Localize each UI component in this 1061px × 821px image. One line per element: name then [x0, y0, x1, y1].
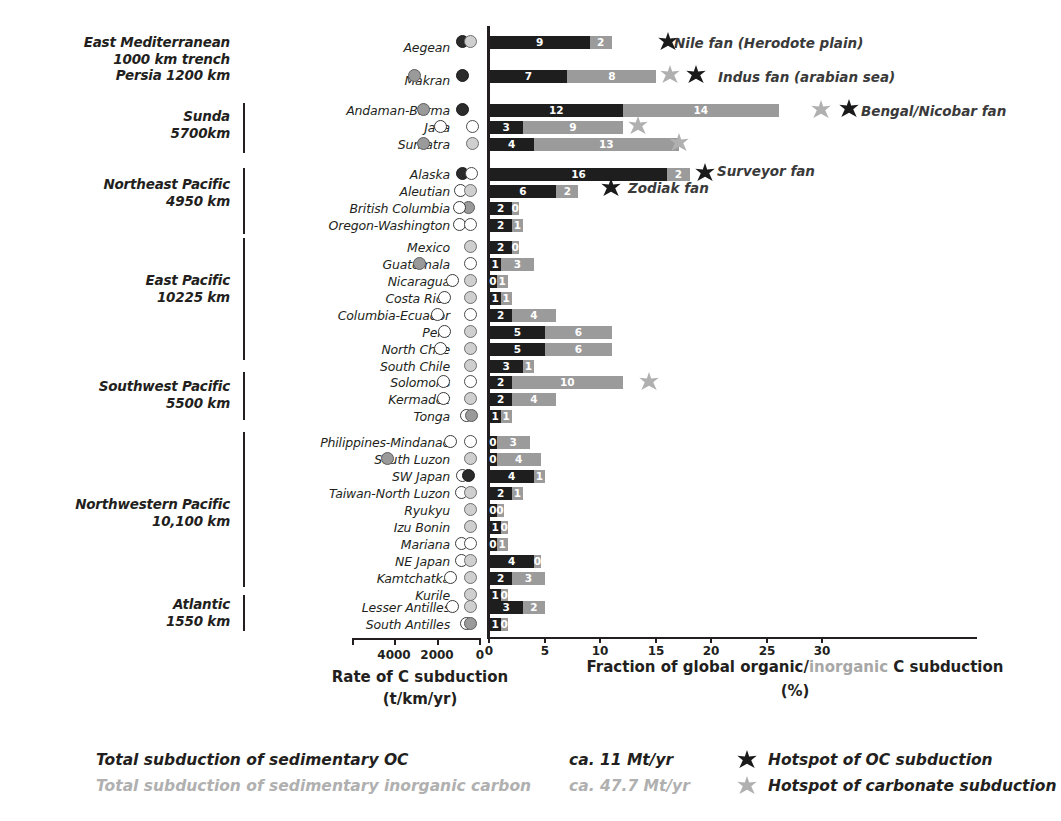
bar-value-organic: 4 — [490, 470, 534, 483]
x-axis-tick — [710, 637, 712, 643]
bar-oregon-washington: 21 — [490, 219, 523, 232]
rate-dot-inorganic — [464, 218, 477, 231]
rate-dot-inorganic — [466, 120, 479, 133]
bar-value-organic: 3 — [490, 360, 523, 373]
bar-segment-organic: 2 — [490, 572, 512, 585]
bar-value-organic: 2 — [490, 376, 512, 389]
rate-dot-organic — [444, 435, 457, 448]
bar-segment-inorganic: 0 — [534, 555, 541, 568]
bar-value-inorganic: 4 — [512, 393, 556, 406]
bar-segment-organic: 7 — [490, 70, 568, 83]
fan-label-nile: Nile fan (Herodote plain) — [674, 36, 863, 50]
x-axis-tick — [544, 637, 546, 643]
fan-label-bengal: Bengal/Nicobar fan — [861, 104, 1006, 118]
bar-segment-organic: 5 — [490, 326, 546, 339]
rate-dot-inorganic — [408, 69, 421, 82]
bar-value-inorganic: 13 — [534, 138, 679, 151]
bar-segment-organic: 0 — [490, 453, 497, 466]
bar-segment-inorganic: 0 — [497, 504, 504, 517]
bar-segment-organic: 1 — [490, 292, 501, 305]
bar-tonga: 11 — [490, 410, 512, 423]
region-line: Northwestern Pacific — [10, 496, 230, 513]
bar-value-organic: 7 — [490, 70, 568, 83]
x-caption-post: C subduction — [888, 658, 1003, 676]
region-label-sunda: Sunda 5700km — [10, 108, 230, 141]
x-axis-tick — [821, 637, 823, 643]
rate-dot-inorganic — [464, 554, 477, 567]
bar-segment-inorganic: 3 — [497, 436, 530, 449]
rate-dot-inorganic — [464, 520, 477, 533]
region-label-east-pacific: East Pacific 10225 km — [10, 272, 230, 305]
bar-sumatra: 413 — [490, 138, 679, 151]
region-line: 4950 km — [10, 193, 230, 210]
bar-segment-inorganic: 2 — [590, 36, 612, 49]
rate-dot-inorganic — [464, 325, 477, 338]
bar-segment-organic: 5 — [490, 343, 546, 356]
star-icon-carbonate-hotspot — [659, 64, 681, 86]
rate-dot-organic — [446, 600, 459, 613]
bar-value-inorganic: 1 — [497, 275, 508, 288]
rate-dot-inorganic — [464, 537, 477, 550]
bar-value-inorganic: 1 — [512, 219, 523, 232]
x-axis-tick — [488, 637, 490, 643]
bar-segment-organic: 3 — [490, 601, 523, 614]
star-icon-carbonate-hotspot — [736, 775, 758, 797]
bar-segment-inorganic: 1 — [512, 487, 523, 500]
legend-oc-value: ca. 11 Mt/yr — [569, 748, 673, 772]
bar-kermadec: 24 — [490, 393, 557, 406]
bar-makran: 78 — [490, 70, 657, 83]
rate-axis-tick — [394, 638, 396, 645]
rate-tick-label-4000: 4000 — [371, 648, 417, 662]
bar-value-organic: 2 — [490, 241, 512, 254]
rate-dot-organic — [446, 274, 459, 287]
bar-kamtchatka: 23 — [490, 572, 546, 585]
region-line: 5700km — [10, 125, 230, 142]
bar-value-inorganic: 2 — [590, 36, 612, 49]
bar-segment-inorganic: 10 — [512, 376, 623, 389]
legend-row-inorganic: Total subduction of sedimentary inorgani… — [96, 774, 996, 800]
region-line: 1000 km trench — [10, 51, 230, 68]
bar-british-columbia: 20 — [490, 202, 519, 215]
bar-value-inorganic: 6 — [545, 326, 612, 339]
bar-value-inorganic: 0 — [512, 241, 519, 254]
bar-segment-inorganic: 0 — [501, 521, 508, 534]
bar-value-organic: 1 — [490, 618, 501, 631]
rate-dot-organic — [434, 120, 447, 133]
bar-value-inorganic: 4 — [512, 309, 556, 322]
rate-dot-inorganic — [413, 257, 426, 270]
rate-dot-organic — [437, 375, 450, 388]
bar-value-organic: 1 — [490, 292, 501, 305]
bar-segment-inorganic: 4 — [497, 453, 541, 466]
region-line: 10225 km — [10, 289, 230, 306]
legend-ic-value: ca. 47.7 Mt/yr — [569, 774, 690, 798]
bar-lesser-antilles: 32 — [490, 601, 546, 614]
x-caption-inorganic: inorganic — [809, 658, 888, 676]
bar-segment-organic: 2 — [490, 376, 512, 389]
bar-segment-inorganic: 8 — [567, 70, 656, 83]
rate-dot-organic — [462, 469, 475, 482]
x-axis-tick — [599, 637, 601, 643]
bar-segment-inorganic: 4 — [512, 393, 556, 406]
bar-segment-organic: 9 — [490, 36, 590, 49]
rate-dot-inorganic — [464, 617, 477, 630]
bar-value-inorganic: 1 — [497, 538, 508, 551]
region-label-southwest-pacific: Southwest Pacific 5500 km — [10, 378, 230, 411]
region-line: 1550 km — [10, 613, 230, 630]
bar-value-organic: 9 — [490, 36, 590, 49]
rate-dot-inorganic — [464, 308, 477, 321]
bar-south-chile: 31 — [490, 360, 534, 373]
bar-aleutian: 62 — [490, 185, 579, 198]
fan-label-zodiak: Zodiak fan — [628, 181, 709, 195]
bar-segment-organic: 2 — [490, 487, 512, 500]
rate-axis-tick — [352, 638, 354, 645]
fan-label-surveyor: Surveyor fan — [717, 164, 815, 178]
rate-dot-organic — [437, 392, 450, 405]
rate-dot-inorganic — [464, 375, 477, 388]
bar-segment-inorganic: 6 — [545, 326, 612, 339]
bar-segment-inorganic: 9 — [523, 121, 623, 134]
region-line: East Pacific — [10, 272, 230, 289]
rate-dot-inorganic — [417, 137, 430, 150]
bar-value-organic: 1 — [490, 258, 501, 271]
rate-dot-inorganic — [464, 240, 477, 253]
bar-south-luzon: 04 — [490, 453, 541, 466]
